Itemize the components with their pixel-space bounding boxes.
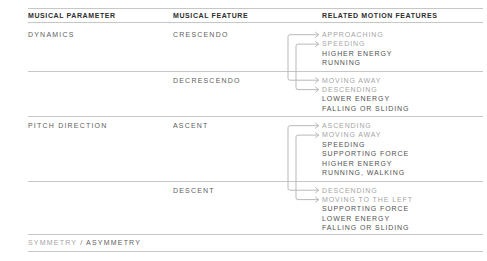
crescendo-decrescendo-divider [28, 71, 483, 72]
feature-label-decrescendo: DECRESCENDO [173, 76, 241, 85]
speeding-descending-connector [296, 41, 319, 92]
top-rule [28, 8, 483, 9]
motion-item: MOVING TO THE LEFT [322, 195, 413, 204]
feature-label-crescendo: CRESCENDO [173, 30, 229, 39]
symmetry-label: SYMMETRY [28, 239, 77, 246]
column-header-musical-feature: MUSICAL FEATURE [173, 12, 248, 19]
motion-item: APPROACHING [322, 30, 392, 39]
motion-item: HIGHER ENERGY [322, 159, 409, 168]
header-rule [28, 22, 483, 23]
motion-item: LOWER ENERGY [322, 214, 413, 223]
ascending-descending-connector [288, 123, 319, 193]
motion-item: MOVING AWAY [322, 76, 409, 85]
motion-item: LOWER ENERGY [322, 94, 409, 103]
motion-item: DESCENDING [322, 85, 409, 94]
motion-item: FALLING OR SLIDING [322, 104, 409, 113]
motion-item: RUNNING, WALKING [322, 168, 409, 177]
ascent-descent-divider [28, 181, 483, 182]
column-header-musical-parameter: MUSICAL PARAMETER [28, 12, 116, 19]
ascent-motion-list: ASCENDING MOVING AWAY SPEEDING SUPPORTIN… [322, 121, 409, 177]
feature-label-descent: DESCENT [173, 186, 215, 195]
param-label-pitch-direction: PITCH DIRECTION [28, 121, 107, 130]
bottom-rule [28, 251, 483, 252]
motion-item: FALLING OR SLIDING [322, 223, 413, 232]
symmetry-asymmetry-row: SYMMETRY / ASYMMETRY [28, 238, 141, 247]
motion-item: SUPPORTING FORCE [322, 149, 409, 158]
approaching-movingaway-connector [288, 32, 319, 83]
param-label-dynamics: DYNAMICS [28, 30, 75, 39]
movingaway-movingtoleft-connector [296, 132, 319, 202]
motion-item: SUPPORTING FORCE [322, 204, 413, 213]
motion-item: MOVING AWAY [322, 130, 409, 139]
musical-motion-feature-table: MUSICAL PARAMETER MUSICAL FEATURE RELATE… [0, 0, 487, 261]
feature-label-ascent: ASCENT [173, 121, 209, 130]
dynamics-pitch-divider [28, 116, 483, 117]
descent-motion-list: DESCENDING MOVING TO THE LEFT SUPPORTING… [322, 186, 413, 233]
motion-item: SPEEDING [322, 39, 392, 48]
motion-item: HIGHER ENERGY [322, 49, 392, 58]
column-header-related-motion-features: RELATED MOTION FEATURES [322, 12, 437, 19]
decrescendo-motion-list: MOVING AWAY DESCENDING LOWER ENERGY FALL… [322, 76, 409, 114]
asymmetry-label: ASYMMETRY [86, 239, 141, 246]
motion-item: RUNNING [322, 58, 392, 67]
crescendo-motion-list: APPROACHING SPEEDING HIGHER ENERGY RUNNI… [322, 30, 392, 68]
motion-item: SPEEDING [322, 140, 409, 149]
motion-item: ASCENDING [322, 121, 409, 130]
symmetry-top-divider [28, 234, 483, 235]
motion-item: DESCENDING [322, 186, 413, 195]
